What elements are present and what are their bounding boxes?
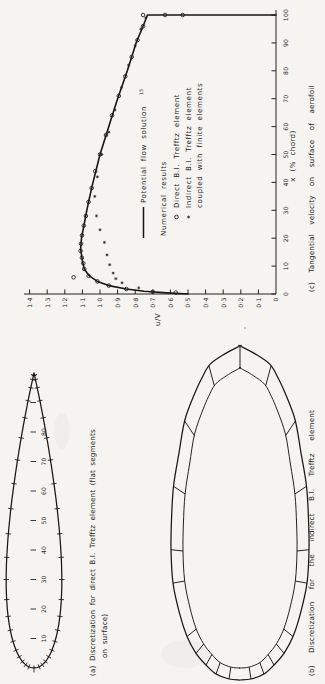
direct-trefftz-markers: [72, 13, 185, 294]
segment-tick: [22, 417, 27, 418]
segment-tick: [57, 534, 62, 535]
chord-scale-label: 20: [40, 605, 47, 613]
chord-scale-label: 30: [40, 575, 47, 583]
y-axis-tick-label: 0·3: [220, 298, 227, 308]
y-axis-title: u/V: [153, 313, 162, 326]
segment-tick: [44, 437, 49, 438]
segment-tick: [28, 387, 33, 388]
y-axis-tick-label: 0·4: [202, 298, 209, 308]
panel-a-discretization-direct: 1020304050607080 (a) Discretization for …: [4, 373, 109, 676]
indirect-marker: [107, 131, 110, 134]
legend-star-marker: [187, 216, 190, 219]
panel-division-line: [276, 644, 284, 653]
segment-tick: [5, 616, 10, 617]
axis-lines: [24, 10, 276, 294]
x-axis-tick-label: 20: [282, 234, 289, 242]
x-axis-tick-label: 100: [282, 9, 289, 21]
chord-scale-label: 80: [40, 428, 47, 436]
rotated-figure: 1020304050607080 (a) Discretization for …: [0, 0, 325, 684]
scan-smudge: [161, 640, 209, 668]
x-axis-tick-label: 30: [282, 206, 289, 214]
segment-tick: [57, 616, 62, 617]
panel-division-line: [295, 486, 307, 494]
panel-c-chart: 010203040506070809010000·10·20·30·40·50·…: [24, 9, 316, 326]
y-axis-tick-label: 0·5: [184, 298, 191, 308]
segment-tick: [30, 379, 35, 380]
y-axis-tick-label: 1·0: [96, 298, 103, 308]
panel-division-line: [216, 663, 220, 674]
y-axis-tick-label: 1·2: [61, 298, 68, 308]
segment-tick: [8, 508, 13, 509]
x-axis-tick-label: 80: [282, 67, 289, 75]
segment-tick: [55, 630, 60, 631]
x-axis-tick-label: 70: [282, 95, 289, 103]
legend-circle-marker: [175, 215, 179, 219]
legend-indirect-label-line2: coupled with finite elements: [195, 83, 204, 208]
segment-tick: [51, 483, 56, 484]
x-axis-tick-label: 0: [282, 292, 289, 296]
legend-indirect-label-line1: Indirect B.I. Trefftz element: [184, 87, 193, 208]
y-axis-tick-label: 0·9: [114, 298, 121, 308]
y-axis-tick-label: 0·7: [149, 298, 156, 308]
airfoil-b-panels: [171, 345, 309, 680]
panel-division-line: [171, 550, 183, 551]
direct-marker: [72, 275, 76, 279]
segment-tick: [41, 417, 46, 418]
legend-numerical-results-label: Numerical results: [159, 161, 168, 236]
panel-division-line: [229, 667, 231, 679]
indirect-marker: [134, 44, 137, 47]
panel-division-line: [173, 581, 185, 583]
airfoil-b-inner-outline: [183, 367, 297, 668]
panel-division-line: [185, 421, 195, 435]
chart-axes: 010203040506070809010000·10·20·30·40·50·…: [24, 9, 289, 308]
segment-tick: [37, 400, 42, 401]
y-axis-tick-label: 0·2: [237, 298, 244, 308]
legend-direct-label: Direct B.I. Trefftz element: [172, 94, 181, 208]
chart-legend: Potential flow solution 15 Numerical res…: [139, 83, 205, 238]
y-axis-tick-label: 0·8: [132, 298, 139, 308]
y-axis-tick-label: 0: [272, 298, 279, 302]
panel-division-line: [260, 663, 264, 674]
panel-b-discretization-indirect: (b) Discretization for the indirect B.I.…: [171, 345, 316, 680]
legend-potential-flow-label: Potential flow solution: [139, 106, 148, 203]
panel-division-line: [187, 629, 196, 637]
airfoil-a-outline: [4, 373, 65, 673]
indirect-marker: [121, 281, 124, 284]
scan-artifacts: [54, 327, 246, 668]
indirect-marker: [137, 286, 140, 289]
chord-scale-label: 40: [40, 546, 47, 554]
indirect-marker: [127, 64, 130, 67]
figure-canvas: 1020304050607080 (a) Discretization for …: [0, 0, 325, 684]
panel-b-caption: (b) Discretization for the indirect B.I.…: [307, 410, 316, 676]
y-axis-tick-label: 0·6: [167, 298, 174, 308]
segment-tick: [8, 630, 13, 631]
x-axis-tick-label: 10: [282, 262, 289, 270]
y-axis-tick-label: 0·1: [255, 298, 262, 308]
indirect-marker: [100, 153, 103, 156]
y-axis-tick-label: 1·3: [44, 298, 51, 308]
indirect-marker: [108, 263, 111, 266]
panel-division-line: [286, 421, 296, 435]
indirect-marker: [96, 175, 99, 178]
indirect-marker: [114, 108, 117, 111]
chord-scale-label: 60: [40, 487, 47, 495]
segment-tick: [54, 508, 59, 509]
scan-speck: [244, 327, 246, 329]
legend-reference-superscript: 15: [139, 88, 144, 95]
panel-division-line: [266, 366, 271, 386]
segment-tick: [19, 437, 24, 438]
y-axis-tick-label: 1·4: [26, 298, 33, 308]
segment-tick: [48, 460, 53, 461]
airfoil-a-chord-scale: 1020304050607080: [31, 403, 47, 643]
panel-a-caption-line1: (a) Discretization for direct B.I. Treff…: [88, 429, 97, 676]
indirect-marker: [93, 195, 96, 198]
panel-c-caption: (c) Tangential velocity on surface of ae…: [307, 85, 316, 292]
panel-division-line: [284, 629, 293, 637]
x-axis-tick-label: 90: [282, 39, 289, 47]
chord-scale-label: 70: [40, 457, 47, 465]
indirect-marker: [106, 253, 109, 256]
direct-marker: [141, 13, 145, 17]
segment-tick: [11, 483, 16, 484]
segment-tick: [15, 460, 20, 461]
panel-division-line: [249, 667, 251, 679]
